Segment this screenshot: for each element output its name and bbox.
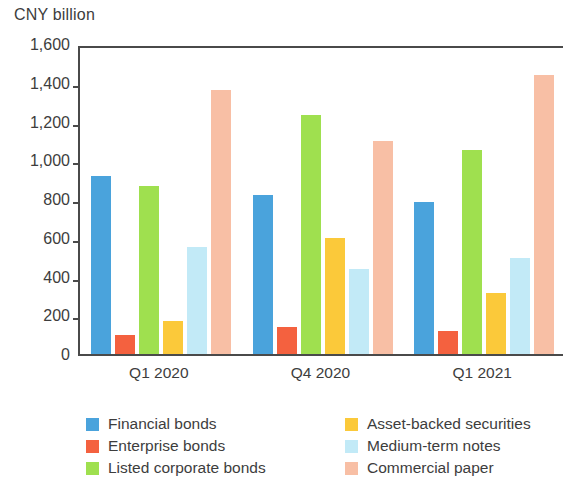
bar	[277, 327, 297, 354]
legend-item[interactable]: Commercial paper	[345, 457, 556, 479]
bar	[163, 321, 183, 354]
x-axis-tick-label: Q4 2020	[240, 364, 402, 382]
legend-item-label: Commercial paper	[367, 460, 494, 476]
bar-group	[253, 48, 393, 354]
legend-item[interactable]: Medium-term notes	[345, 435, 556, 457]
bar	[373, 141, 393, 354]
legend-swatch-icon	[86, 440, 99, 453]
chart-legend: Financial bondsEnterprise bondsListed co…	[86, 413, 556, 479]
legend-item[interactable]: Enterprise bonds	[86, 435, 321, 457]
bar	[187, 247, 207, 354]
legend-column-right: Asset-backed securitiesMedium-term notes…	[321, 413, 556, 479]
bar	[486, 293, 506, 354]
bar-group	[414, 48, 554, 354]
x-axis-tick-label: Q1 2021	[401, 364, 563, 382]
legend-swatch-icon	[86, 418, 99, 431]
y-axis-tick	[73, 202, 80, 204]
y-axis-tick	[73, 318, 80, 320]
bar	[325, 238, 345, 354]
bar	[438, 331, 458, 354]
y-axis-tick-label: 1,200	[8, 114, 70, 132]
y-axis-tick-label: 200	[8, 307, 70, 325]
y-axis-tick	[73, 125, 80, 127]
legend-item-label: Enterprise bonds	[108, 438, 225, 454]
bar	[211, 90, 231, 354]
bar	[462, 150, 482, 354]
y-axis-tick-label: 400	[8, 269, 70, 287]
bar	[301, 115, 321, 354]
bar	[91, 176, 111, 354]
y-axis-tick-label: 1,600	[8, 36, 70, 54]
plot-area	[78, 46, 563, 356]
x-axis-tick-label: Q1 2020	[78, 364, 240, 382]
y-axis-tick	[73, 280, 80, 282]
y-axis-unit-label: CNY billion	[14, 6, 95, 24]
legend-item[interactable]: Asset-backed securities	[345, 413, 556, 435]
legend-swatch-icon	[345, 440, 358, 453]
bar	[139, 186, 159, 354]
legend-column-left: Financial bondsEnterprise bondsListed co…	[86, 413, 321, 479]
legend-item-label: Medium-term notes	[367, 438, 501, 454]
y-axis-tick-label: 800	[8, 191, 70, 209]
bar	[510, 258, 530, 354]
legend-item-label: Listed corporate bonds	[108, 460, 266, 476]
bar	[115, 335, 135, 354]
legend-item[interactable]: Financial bonds	[86, 413, 321, 435]
y-axis-tick-label: 1,400	[8, 75, 70, 93]
bar	[253, 195, 273, 354]
bar-group	[91, 48, 231, 354]
legend-item-label: Asset-backed securities	[367, 416, 531, 432]
legend-item-label: Financial bonds	[108, 416, 217, 432]
legend-swatch-icon	[345, 418, 358, 431]
bar	[349, 269, 369, 354]
y-axis-tick	[73, 241, 80, 243]
y-axis-tick	[73, 163, 80, 165]
legend-item[interactable]: Listed corporate bonds	[86, 457, 321, 479]
y-axis-tick-label: 1,000	[8, 152, 70, 170]
bar-chart: CNY billion 1,6001,4001,2001,00080060040…	[0, 0, 573, 481]
y-axis-tick-label: 0	[8, 346, 70, 364]
y-axis-tick-label: 600	[8, 230, 70, 248]
legend-swatch-icon	[345, 462, 358, 475]
bar	[534, 75, 554, 354]
y-axis-tick	[73, 86, 80, 88]
legend-swatch-icon	[86, 462, 99, 475]
bar	[414, 202, 434, 354]
plot-inner	[80, 48, 563, 354]
